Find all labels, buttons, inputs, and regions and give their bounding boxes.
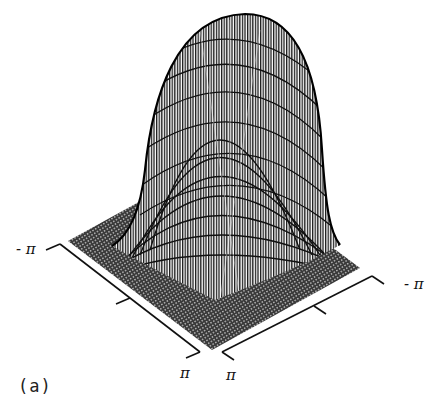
left-axis-end-label: π [180,366,190,381]
left-axis-start-label: - π [16,242,36,257]
right-axis-start-label: π [226,368,236,383]
right-axis-end-label: - π [404,277,424,292]
peak-surface [108,14,352,300]
surface-plot-figure: - π π π - π (a) [0,0,447,410]
figure-caption: (a) [18,376,52,396]
surface-plot-canvas [0,0,447,410]
